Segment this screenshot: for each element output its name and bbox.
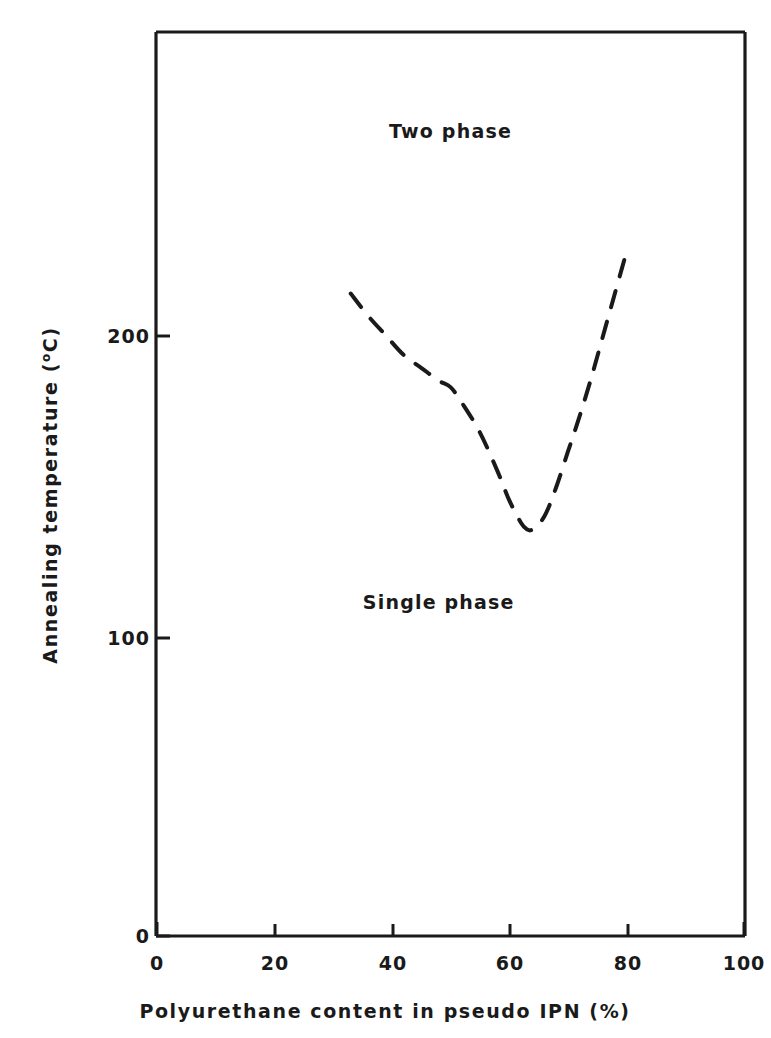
x-axis-ticks [157, 922, 744, 936]
chart-canvas [0, 0, 771, 1038]
y-tick-label-0: 0 [136, 925, 150, 947]
y-tick-label-100: 100 [107, 627, 150, 649]
x-tick-label-80: 80 [614, 952, 642, 974]
x-tick-label-20: 20 [261, 952, 289, 974]
annotation-single-phase: Single phase [363, 591, 515, 613]
plot-frame [156, 32, 745, 936]
x-tick-label-60: 60 [496, 952, 524, 974]
x-tick-label-0: 0 [150, 952, 164, 974]
x-axis-title: Polyurethane content in pseudo IPN (%) [139, 1000, 630, 1022]
y-tick-label-200: 200 [107, 325, 150, 347]
phase-boundary-curve [351, 252, 627, 531]
annotation-two-phase: Two phase [389, 120, 512, 142]
x-tick-label-40: 40 [379, 952, 407, 974]
phase-diagram-figure: 0 100 200 0 20 40 60 80 100 Two phase Si… [0, 0, 771, 1038]
x-tick-label-100: 100 [723, 952, 766, 974]
y-axis-ticks [156, 336, 170, 936]
